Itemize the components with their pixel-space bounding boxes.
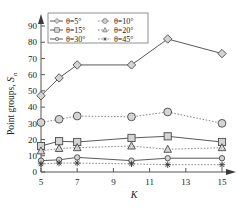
data-point-marker bbox=[164, 108, 172, 116]
data-point-marker bbox=[38, 161, 44, 167]
data-point-marker bbox=[128, 113, 136, 121]
legend-marker-holder bbox=[103, 19, 108, 24]
data-point-marker bbox=[73, 61, 81, 69]
x-tick-group: 579111315 bbox=[39, 168, 227, 187]
data-point-marker bbox=[218, 119, 226, 127]
y-axis-title: Point groups, bbox=[6, 84, 16, 135]
y-tick-label: 70 bbox=[28, 54, 38, 64]
circle-small-marker-icon bbox=[55, 37, 58, 40]
axis-titles: K Point groups, S n bbox=[5, 72, 139, 200]
point-groups-line-chart: 0102030405060708090 579111315 θ=5°θ=10°θ… bbox=[0, 0, 244, 208]
circle-large-marker-icon bbox=[103, 19, 108, 24]
legend-marker-holder bbox=[55, 28, 59, 32]
y-tick-label: 0 bbox=[33, 167, 38, 177]
y-axis-title-subscript: n bbox=[11, 72, 19, 76]
x-tick-label: 11 bbox=[145, 177, 154, 187]
y-tick-label: 20 bbox=[28, 135, 38, 145]
x-tick-label: 15 bbox=[218, 177, 228, 187]
series-2 bbox=[37, 108, 226, 127]
legend-marker-holder bbox=[103, 37, 107, 41]
data-point-marker bbox=[164, 145, 172, 152]
data-point-marker bbox=[128, 142, 136, 149]
legend-label: θ=45° bbox=[114, 35, 134, 44]
data-point-marker bbox=[164, 35, 172, 43]
y-axis-title-symbol: S bbox=[5, 77, 16, 82]
x-tick-label: 7 bbox=[75, 177, 80, 187]
data-point-marker bbox=[219, 162, 225, 168]
y-tick-label: 50 bbox=[28, 86, 38, 96]
data-point-marker bbox=[73, 112, 81, 120]
series-4 bbox=[37, 142, 226, 154]
legend-label: θ=30° bbox=[66, 35, 86, 44]
x-tick-label: 9 bbox=[111, 177, 116, 187]
y-tick-label: 90 bbox=[28, 21, 38, 31]
y-tick-label: 40 bbox=[28, 102, 38, 112]
legend-label: θ=20° bbox=[114, 26, 134, 35]
y-axis-title-group: Point groups, S n bbox=[5, 72, 19, 135]
data-point-marker bbox=[74, 160, 80, 166]
legend-label: θ=10° bbox=[114, 17, 134, 26]
series-6 bbox=[38, 160, 225, 168]
legend-marker-holder bbox=[55, 37, 58, 40]
series-layer bbox=[37, 35, 226, 168]
legend-label: θ=5° bbox=[66, 17, 82, 26]
x-axis-title: K bbox=[130, 189, 139, 200]
data-point-marker bbox=[55, 115, 63, 123]
data-point-marker bbox=[165, 162, 171, 168]
legend-label: θ=15° bbox=[66, 26, 86, 35]
data-point-marker bbox=[165, 156, 170, 161]
y-tick-label: 10 bbox=[28, 151, 38, 161]
chart-legend: θ=5°θ=10°θ=15°θ=20°θ=30°θ=45° bbox=[48, 13, 148, 44]
data-point-marker bbox=[219, 156, 224, 161]
y-tick-label: 80 bbox=[28, 37, 38, 47]
data-point-marker bbox=[56, 160, 62, 166]
data-point-marker bbox=[75, 155, 80, 160]
y-axis-arrow-icon bbox=[38, 14, 44, 24]
x-axis-arrow-icon bbox=[226, 169, 236, 175]
data-point-marker bbox=[128, 134, 135, 141]
x-tick-label: 5 bbox=[39, 177, 44, 187]
y-tick-label: 30 bbox=[28, 119, 38, 129]
data-point-marker bbox=[127, 61, 135, 69]
data-point-marker bbox=[164, 133, 171, 140]
data-point-marker bbox=[37, 119, 45, 127]
x-tick-label: 13 bbox=[181, 177, 191, 187]
data-point-marker bbox=[218, 49, 226, 57]
data-point-marker bbox=[55, 144, 63, 151]
square-marker-icon bbox=[55, 28, 59, 32]
data-point-marker bbox=[128, 161, 134, 167]
series-1 bbox=[37, 35, 226, 100]
star-marker-icon bbox=[103, 37, 107, 41]
y-tick-label: 60 bbox=[28, 70, 38, 80]
chart-figure: 0102030405060708090 579111315 θ=5°θ=10°θ… bbox=[0, 0, 244, 208]
